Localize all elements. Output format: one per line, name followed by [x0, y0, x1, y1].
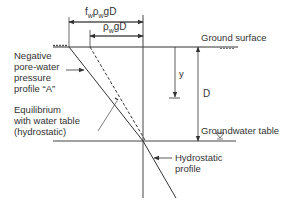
y-label: y [179, 68, 184, 79]
groundwater-table-label: Groundwater table [201, 125, 279, 136]
negative-profile-line-2: pore-water [14, 61, 59, 72]
equilibrium-leader [98, 101, 117, 131]
outer-dimension-label: fwρwgD [85, 6, 116, 21]
negative-profile-line-3: pressure [14, 72, 59, 83]
negative-profile-line-1: Negative [14, 50, 59, 61]
hydrostatic-profile-line [143, 141, 176, 198]
hydrostatic-line-1: Hydrostatic [175, 152, 223, 163]
label-gD: gD [104, 6, 117, 17]
negative-profile-label: Negative pore-water pressure profile “A” [14, 50, 59, 94]
D-label: D [203, 88, 210, 99]
equilibrium-label: Equilibrium with water table (hydrostati… [14, 104, 80, 137]
label-gD: gD [114, 21, 127, 32]
equilibrium-leader-tip [115, 98, 118, 100]
negative-profile-line-4: profile “A” [14, 83, 59, 94]
hydrostatic-profile-label: Hydrostatic profile [175, 152, 223, 174]
equilibrium-line-2: with water table [14, 115, 80, 126]
ground-surface-label: Ground surface [201, 32, 266, 43]
hydrostatic-line-2: profile [175, 163, 223, 174]
inner-dimension-label: ρwgD [103, 21, 127, 36]
equilibrium-line-3: (hydrostatic) [14, 126, 80, 137]
equilibrium-dashed-line [90, 47, 145, 140]
negative-profile-line [69, 47, 143, 141]
equilibrium-line-1: Equilibrium [14, 104, 80, 115]
